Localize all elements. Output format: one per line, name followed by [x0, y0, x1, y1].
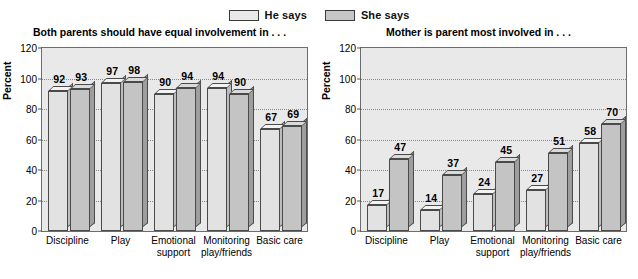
bar-she-says — [70, 89, 90, 231]
bar-value-label: 37 — [447, 157, 459, 169]
legend-entry-he-says: He says — [229, 9, 307, 21]
bar-he-says — [260, 129, 280, 231]
y-axis-tick-label: 120 — [339, 43, 356, 54]
y-axis-tick-mark — [38, 109, 42, 110]
bar-front-face — [601, 124, 621, 231]
bar-value-label: 92 — [53, 73, 65, 85]
bar-front-face — [101, 83, 121, 231]
bar-front-face — [367, 205, 387, 231]
legend-entry-she-says: She says — [325, 9, 410, 21]
bar-group: 9798 — [95, 48, 148, 231]
bar-value-label: 14 — [425, 192, 437, 204]
bar-front-face — [154, 94, 174, 231]
plot-area-right: 17471437244527515870 020406080100120 — [360, 47, 627, 232]
y-axis-tick-label: 80 — [345, 104, 356, 115]
y-axis-tick-mark — [357, 139, 361, 140]
chart-panel-right: Mother is parent most involved in . . . … — [319, 26, 638, 279]
x-axis-labels-left: DisciplinePlayEmotional supportMonitorin… — [41, 235, 308, 277]
bar-value-label: 93 — [75, 71, 87, 83]
bar-she-says — [548, 153, 568, 231]
y-axis-tick-mark — [357, 231, 361, 232]
bar-he-says — [473, 194, 493, 231]
legend-swatch-he-says-icon — [229, 10, 259, 21]
bar-she-says — [176, 88, 196, 231]
bar-front-face — [207, 88, 227, 231]
bar-group: 5870 — [573, 48, 626, 231]
bar-value-label: 47 — [394, 141, 406, 153]
y-axis-tick-mark — [357, 109, 361, 110]
bar-value-label: 67 — [265, 111, 277, 123]
y-axis-tick-mark — [357, 48, 361, 49]
bar-value-label: 90 — [159, 76, 171, 88]
plot-area-left: 92939798909494906769 020406080100120 — [41, 47, 308, 232]
plot-inner-left: 92939798909494906769 — [42, 48, 307, 231]
bar-value-label: 17 — [372, 187, 384, 199]
bar-front-face — [48, 91, 68, 231]
bar-he-says — [207, 88, 227, 231]
bar-value-label: 27 — [531, 172, 543, 184]
bar-she-says — [389, 159, 409, 231]
y-axis-tick-label: 40 — [26, 165, 37, 176]
legend-label-she-says: She says — [361, 9, 410, 21]
bar-front-face — [473, 194, 493, 231]
bar-group: 1747 — [361, 48, 414, 231]
y-axis-tick-mark — [38, 139, 42, 140]
bar-value-label: 70 — [606, 106, 618, 118]
bar-he-says — [579, 143, 599, 231]
y-axis-tick-label: 20 — [26, 195, 37, 206]
bar-he-says — [367, 205, 387, 231]
chart-title-right: Mother is parent most involved in . . . — [319, 26, 638, 38]
bar-group: 9293 — [42, 48, 95, 231]
bar-she-says — [442, 175, 462, 231]
bar-front-face — [442, 175, 462, 231]
y-axis-label-left: Percent — [1, 61, 13, 100]
bar-value-label: 58 — [584, 125, 596, 137]
bar-front-face — [579, 143, 599, 231]
y-axis-tick-mark — [38, 48, 42, 49]
bar-value-label: 94 — [181, 70, 193, 82]
bar-value-label: 51 — [553, 135, 565, 147]
y-axis-tick-label: 60 — [345, 134, 356, 145]
bar-group: 2445 — [467, 48, 520, 231]
y-axis-label-right: Percent — [320, 61, 332, 100]
legend-label-he-says: He says — [265, 9, 307, 21]
bar-side-face — [621, 116, 626, 227]
x-axis-labels-right: DisciplinePlayEmotional supportMonitorin… — [360, 235, 627, 277]
y-axis-tick-mark — [38, 200, 42, 201]
y-axis-tick-label: 120 — [20, 43, 37, 54]
y-axis-tick-label: 100 — [20, 73, 37, 84]
y-axis-tick-mark — [38, 78, 42, 79]
bar-she-says — [495, 162, 515, 231]
bar-front-face — [176, 88, 196, 231]
bar-front-face — [420, 210, 440, 231]
bar-group: 6769 — [254, 48, 307, 231]
bar-group: 9490 — [201, 48, 254, 231]
y-axis-tick-label: 40 — [345, 165, 356, 176]
x-axis-tick-label: Basic care — [565, 235, 632, 247]
bar-front-face — [495, 162, 515, 231]
y-axis-tick-mark — [38, 231, 42, 232]
y-axis-tick-label: 60 — [26, 134, 37, 145]
bar-he-says — [101, 83, 121, 231]
bar-side-face — [302, 118, 307, 227]
bar-front-face — [260, 129, 280, 231]
bar-front-face — [548, 153, 568, 231]
bar-he-says — [526, 190, 546, 231]
bar-he-says — [48, 91, 68, 231]
y-axis-tick-label: 20 — [345, 195, 356, 206]
bar-group: 2751 — [520, 48, 573, 231]
x-axis-tick-label: Basic care — [246, 235, 313, 247]
bar-front-face — [282, 126, 302, 231]
bar-value-label: 24 — [478, 176, 490, 188]
legend-swatch-she-says-icon — [325, 10, 355, 21]
y-axis-tick-mark — [357, 200, 361, 201]
y-axis-tick-mark — [357, 170, 361, 171]
bar-front-face — [70, 89, 90, 231]
bar-value-label: 90 — [234, 76, 246, 88]
y-axis-tick-mark — [357, 78, 361, 79]
chart-panel-left: Both parents should have equal involveme… — [0, 26, 319, 279]
bar-front-face — [389, 159, 409, 231]
chart-legend: He says She says — [0, 6, 638, 24]
bar-group: 1437 — [414, 48, 467, 231]
y-axis-tick-label: 80 — [26, 104, 37, 115]
